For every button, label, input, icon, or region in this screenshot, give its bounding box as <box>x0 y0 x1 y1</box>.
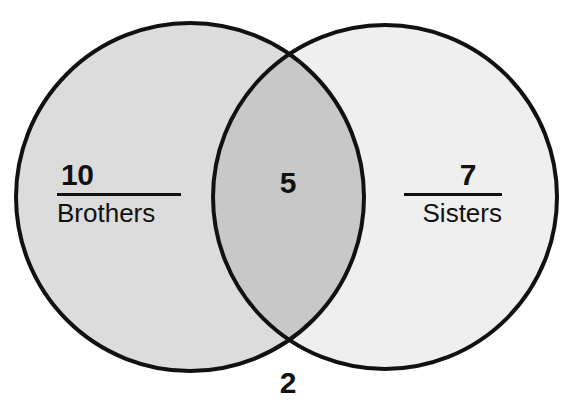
left-set-label: 10 Brothers <box>57 160 181 226</box>
venn-diagram-figure: 10 Brothers 5 7 Sisters 2 <box>0 0 587 413</box>
right-set-label: 7 Sisters <box>404 160 502 226</box>
left-set-count: 10 <box>57 160 93 193</box>
intersection-count: 5 <box>258 166 318 200</box>
left-set-name: Brothers <box>57 196 155 226</box>
right-set-name: Sisters <box>423 196 502 226</box>
right-set-count: 7 <box>460 160 502 193</box>
outside-count: 2 <box>258 366 318 400</box>
